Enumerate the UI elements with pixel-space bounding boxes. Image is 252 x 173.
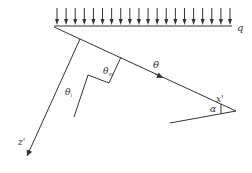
load-arrow-head xyxy=(192,19,196,25)
slope-line xyxy=(54,27,236,111)
wedge-bottom-line xyxy=(170,111,236,123)
theta-m-label: θm xyxy=(103,66,113,77)
load-arrow-head xyxy=(228,19,232,25)
distributed-load-arrows xyxy=(55,8,232,25)
load-arrow-head xyxy=(128,19,132,25)
load-arrow-head xyxy=(146,19,150,25)
load-arrow-head xyxy=(182,19,186,25)
load-arrow-head xyxy=(55,19,59,25)
diagram-svg: q θ θm θi x' z' α xyxy=(0,0,252,173)
load-arrow-head xyxy=(201,19,205,25)
q-label: q xyxy=(237,22,243,33)
load-arrow-head xyxy=(137,19,141,25)
load-arrow-head xyxy=(210,19,214,25)
load-arrow-head xyxy=(64,19,68,25)
diagram-canvas: q θ θm θi x' z' α xyxy=(0,0,252,173)
theta-direction-arrow xyxy=(155,74,163,78)
inner-bracket xyxy=(74,57,121,117)
theta-i-label: θi xyxy=(65,87,72,98)
load-arrow-head xyxy=(110,19,114,25)
z-axis-line xyxy=(27,39,80,156)
load-arrow-head xyxy=(82,19,86,25)
load-arrow-head xyxy=(173,19,177,25)
z-axis-label: z' xyxy=(17,137,25,147)
theta-label: θ xyxy=(153,59,159,70)
load-arrow-head xyxy=(101,19,105,25)
alpha-label: α xyxy=(210,104,216,114)
load-arrow-head xyxy=(91,19,95,25)
load-arrow-head xyxy=(155,19,159,25)
load-arrow-head xyxy=(219,19,223,25)
load-arrow-head xyxy=(164,19,168,25)
load-arrow-head xyxy=(73,19,77,25)
x-axis-label: x' xyxy=(216,94,224,104)
load-arrow-head xyxy=(119,19,123,25)
